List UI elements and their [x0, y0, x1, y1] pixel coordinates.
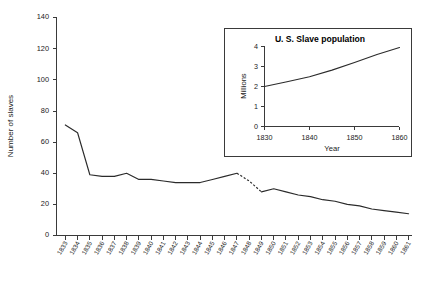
x-tick-label: 1858 — [362, 240, 375, 256]
main-y-ticks — [53, 18, 57, 236]
y-tick-label: 120 — [37, 44, 49, 53]
y-tick-label: 100 — [37, 75, 49, 84]
x-tick-label: 1856 — [337, 240, 350, 256]
main-data-line — [65, 125, 237, 183]
chart-svg: 140 120 100 80 60 40 20 0 Number of slav… — [0, 0, 430, 281]
x-tick-label: 1833 — [55, 240, 68, 256]
inset-y-tick-label: 4 — [254, 42, 258, 51]
inset-y-axis-title: Millions — [239, 73, 248, 99]
y-tick-label: 60 — [41, 137, 49, 146]
x-tick-label: 1861 — [399, 240, 412, 256]
inset-x-tick-label: 1840 — [302, 133, 318, 142]
y-tick-label: 0 — [45, 230, 49, 239]
x-tick-label: 1846 — [215, 240, 228, 256]
x-tick-label: 1847 — [227, 240, 240, 256]
inset-y-tick-label: 3 — [254, 62, 258, 71]
inset-x-tick-label: 1830 — [257, 133, 273, 142]
main-x-ticks — [65, 236, 408, 240]
x-tick-label: 1855 — [325, 240, 338, 256]
main-y-axis-title: Number of slaves — [6, 95, 15, 157]
x-tick-label: 1845 — [203, 240, 216, 256]
x-tick-label: 1854 — [313, 240, 326, 256]
inset-y-tick-label: 2 — [254, 82, 258, 91]
x-tick-label: 1857 — [350, 240, 363, 256]
inset-title: U. S. Slave population — [275, 34, 365, 44]
x-tick-label: 1841 — [153, 240, 166, 256]
x-tick-label: 1852 — [288, 240, 301, 256]
x-tick-label: 1838 — [117, 240, 130, 256]
y-tick-label: 40 — [41, 168, 49, 177]
x-tick-label: 1853 — [301, 240, 314, 256]
x-tick-label: 1834 — [68, 240, 81, 256]
x-tick-label: 1851 — [276, 240, 289, 256]
inset-y-tick-label: 0 — [254, 122, 258, 131]
x-tick-label: 1842 — [166, 240, 179, 256]
x-tick-label: 1850 — [264, 240, 277, 256]
main-y-tick-labels: 140 120 100 80 60 40 20 0 — [37, 12, 49, 239]
inset-x-axis-title: Year — [324, 144, 340, 153]
inset-frame — [225, 29, 412, 157]
inset-chart: U. S. Slave population 4 3 2 1 0 Million… — [225, 29, 412, 157]
x-tick-label: 1859 — [374, 240, 387, 256]
x-tick-label: 1840 — [141, 240, 154, 256]
x-tick-label: 1844 — [190, 240, 203, 256]
x-tick-label: 1843 — [178, 240, 191, 256]
y-tick-label: 140 — [37, 12, 49, 21]
x-tick-label: 1836 — [92, 240, 105, 256]
y-tick-label: 20 — [41, 199, 49, 208]
inset-x-tick-label: 1850 — [347, 133, 363, 142]
inset-y-tick-label: 1 — [254, 102, 258, 111]
y-tick-label: 80 — [41, 106, 49, 115]
inset-x-tick-label: 1860 — [392, 133, 408, 142]
main-data-line-continued — [261, 189, 408, 214]
main-data-line-dashed-segment — [237, 173, 262, 192]
x-tick-label: 1860 — [386, 240, 399, 256]
figure-container: 140 120 100 80 60 40 20 0 Number of slav… — [0, 0, 430, 281]
x-tick-label: 1837 — [104, 240, 117, 256]
x-tick-label: 1835 — [80, 240, 93, 256]
x-tick-label: 1849 — [252, 240, 265, 256]
main-x-tick-labels: 1833183418351836183718381839184018411842… — [55, 240, 412, 256]
x-tick-label: 1839 — [129, 240, 142, 256]
x-tick-label: 1848 — [239, 240, 252, 256]
